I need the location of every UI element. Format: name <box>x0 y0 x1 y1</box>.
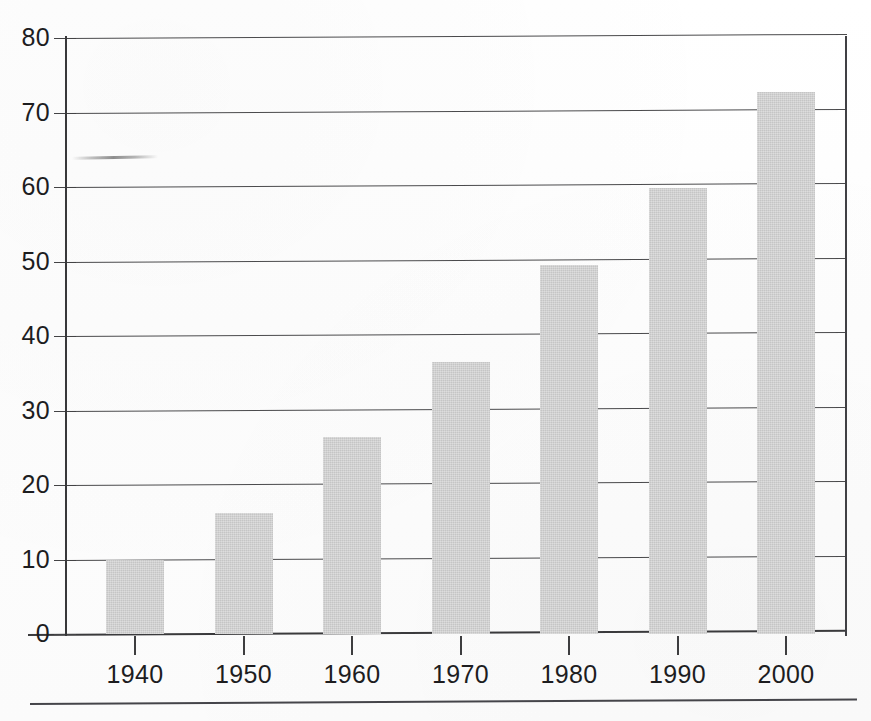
x-axis-tick <box>785 636 787 655</box>
y-axis-tick-label: 70 <box>6 100 50 125</box>
x-axis-tick-label: 1970 <box>401 662 521 687</box>
x-axis-tick <box>243 636 245 655</box>
x-axis-tick-label: 2000 <box>726 662 846 687</box>
y-axis-tick-label: 20 <box>6 472 50 497</box>
x-axis-tick <box>677 636 679 655</box>
y-axis-tick-label: 40 <box>6 323 50 348</box>
y-axis-tick-label: 80 <box>6 25 50 50</box>
bar-1950 <box>215 513 273 634</box>
y-axis-tick-label: 60 <box>6 174 50 199</box>
gridline <box>65 183 847 188</box>
bar-2000 <box>757 92 815 634</box>
y-axis-tick-label: 30 <box>6 398 50 423</box>
x-axis-tick-label: 1990 <box>618 662 738 687</box>
bar-1940 <box>106 560 164 635</box>
x-axis-tick-label: 1960 <box>292 662 412 687</box>
gridline <box>65 34 847 39</box>
y-axis-tick-label: 50 <box>6 249 50 274</box>
x-axis-tick-label: 1980 <box>509 662 629 687</box>
gridline <box>65 257 847 262</box>
x-axis-tick <box>568 636 570 655</box>
x-axis-tick-label: 1950 <box>184 662 304 687</box>
y-axis-tick-label: 10 <box>6 547 50 572</box>
bar-1970 <box>432 362 490 634</box>
bar-chart: 01020304050607080 1940195019601970198019… <box>0 0 871 721</box>
scan-smudge-artifact <box>72 155 158 160</box>
y-axis-line <box>65 36 67 636</box>
x-axis-tick <box>351 636 353 655</box>
bar-1990 <box>649 188 707 634</box>
bar-1960 <box>323 437 381 634</box>
x-axis-tick-label: 1940 <box>75 662 195 687</box>
gridline <box>65 332 847 337</box>
gridline <box>65 108 847 113</box>
x-axis-tick <box>460 636 462 655</box>
x-axis-tick <box>134 636 136 655</box>
bar-1980 <box>540 265 598 634</box>
plot-frame-right-edge <box>845 36 847 636</box>
y-axis-tick-label: 0 <box>6 621 50 646</box>
chart-page: 01020304050607080 1940195019601970198019… <box>0 0 871 721</box>
